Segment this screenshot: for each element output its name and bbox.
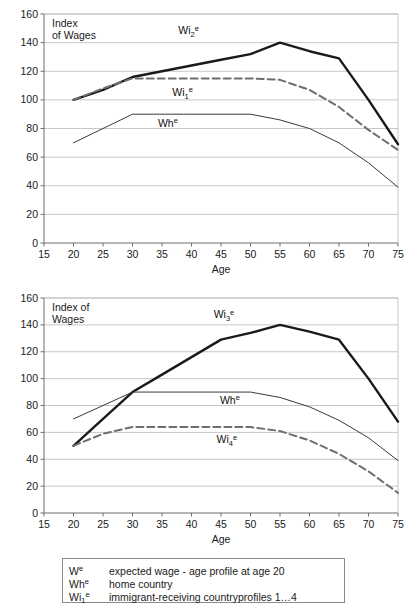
legend-description: immigrant-receiving countryprofiles 1…4 [109,591,297,604]
x-tick-label: 35 [156,248,168,260]
x-axis-ticks: 15202530354045505560657075 [38,243,404,260]
x-tick-label: 25 [97,518,109,530]
x-tick-label: 45 [215,248,227,260]
y-tick-label: 80 [26,122,38,134]
plot-title: Indexof Wages [52,17,96,41]
plot-title-line: of Wages [52,29,96,41]
x-tick-label: 35 [156,518,168,530]
x-tick-label: 55 [274,248,286,260]
y-tick-label: 40 [26,453,38,465]
legend-description: expected wage - age profile at age 20 [109,565,285,578]
x-tick-label: 20 [68,518,80,530]
y-axis-ticks: 020406080100120140160 [20,8,44,249]
x-tick-label: 60 [304,248,316,260]
plot-title: Index ofWages [52,301,89,325]
series-line-Wi2e [74,43,399,145]
x-tick-label: 70 [363,248,375,260]
x-tick-label: 40 [186,248,198,260]
y-tick-label: 20 [26,208,38,220]
series-label-Whe: Whe [158,116,178,129]
y-tick-label: 160 [20,8,38,20]
y-tick-label: 60 [26,151,38,163]
series-label-Wi4e: Wi4e [217,433,238,449]
x-tick-label: 25 [97,248,109,260]
x-tick-label: 50 [245,248,257,260]
x-tick-label: 15 [38,248,50,260]
series-label-Wi3e: Wi3e [214,308,235,324]
x-tick-label: 40 [186,518,198,530]
svg-text:Wi4e: Wi4e [217,433,238,449]
series-line-Whe [74,114,399,187]
x-axis-ticks: 15202530354045505560657075 [38,513,404,530]
svg-text:Wi1e: Wi1e [172,85,193,101]
x-tick-label: 60 [304,518,316,530]
y-tick-label: 40 [26,179,38,191]
x-tick-label: 30 [127,248,139,260]
x-tick-label: 15 [38,518,50,530]
x-tick-label: 50 [245,518,257,530]
x-tick-label: 45 [215,518,227,530]
series-label-Whe: Whe [220,393,240,406]
plot-title-line: Wages [52,313,84,325]
svg-text:Wi2e: Wi2e [178,24,199,40]
chart-2-svg: 0204060801001201401601520253035404550556… [0,288,414,560]
y-tick-label: 120 [20,345,38,357]
x-tick-label: 65 [333,518,345,530]
plot-title-line: Index [52,17,78,29]
y-tick-label: 20 [26,480,38,492]
x-tick-label: 30 [127,518,139,530]
x-axis-title: Age [212,533,231,545]
chart-wages-panel-1: 0204060801001201401601520253035404550556… [0,0,414,288]
y-tick-label: 160 [20,292,38,304]
y-tick-label: 140 [20,318,38,330]
series-label-Wi1e: Wi1e [172,85,193,101]
x-tick-label: 70 [363,518,375,530]
svg-text:Whe: Whe [220,393,240,406]
x-tick-label: 20 [68,248,80,260]
chart-wages-panel-2: 0204060801001201401601520253035404550556… [0,288,414,560]
legend-row: We expected wage - age profile at age 20 [69,562,344,575]
chart-1-svg: 0204060801001201401601520253035404550556… [0,0,414,288]
y-tick-label: 100 [20,93,38,105]
y-tick-label: 100 [20,372,38,384]
y-axis-ticks: 020406080100120140160 [20,292,44,519]
y-tick-label: 120 [20,65,38,77]
svg-text:Wi3e: Wi3e [214,308,235,324]
y-tick-label: 140 [20,36,38,48]
svg-text:Whe: Whe [158,116,178,129]
x-tick-label: 75 [392,518,404,530]
x-tick-label: 65 [333,248,345,260]
y-tick-label: 80 [26,399,38,411]
plot-title-line: Index of [52,301,89,313]
x-tick-label: 55 [274,518,286,530]
legend-description: home country [109,578,173,591]
legend-box: We expected wage - age profile at age 20… [62,558,345,603]
series-label-Wi2e: Wi2e [178,24,199,40]
legend-symbol: Wi1e [69,588,109,607]
x-tick-label: 75 [392,248,404,260]
x-axis-title: Age [212,263,231,275]
y-tick-label: 60 [26,426,38,438]
